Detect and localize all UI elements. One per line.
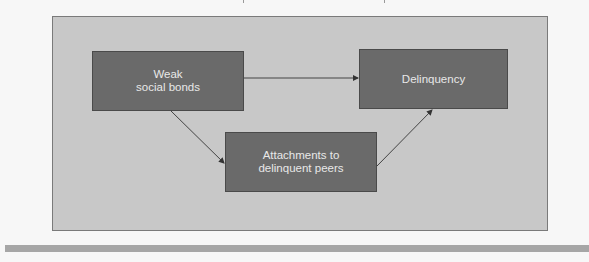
node-attachments-line2: delinquent peers: [258, 162, 343, 175]
bottom-divider-bar: [5, 245, 589, 252]
node-attachments-line1: Attachments to: [258, 149, 343, 162]
node-weak-line1: Weak: [136, 68, 200, 81]
node-weak-line2: social bonds: [136, 81, 200, 94]
top-crop-mark-left: [243, 0, 244, 3]
node-attachments-to-delinquent-peers: Attachments to delinquent peers: [225, 132, 377, 192]
node-delinquency: Delinquency: [359, 49, 508, 109]
node-delinquency-label: Delinquency: [402, 73, 465, 86]
top-crop-mark-right: [384, 0, 385, 3]
node-weak-social-bonds: Weak social bonds: [92, 51, 244, 111]
